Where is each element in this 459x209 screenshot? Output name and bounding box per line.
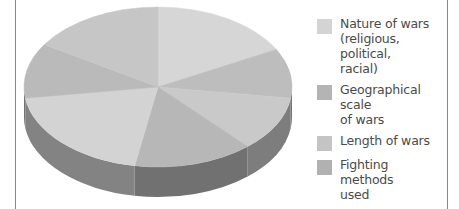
legend-swatch bbox=[317, 85, 332, 100]
legend-swatch bbox=[317, 160, 332, 175]
legend-label: Nature of wars (religious, political, ra… bbox=[340, 16, 445, 76]
legend-label-line: of wars bbox=[340, 112, 445, 127]
legend-item-nature-of-wars: Nature of wars (religious, political, ra… bbox=[317, 16, 445, 76]
legend-label-line: racial) bbox=[340, 61, 445, 76]
legend-item-geographical-scale: Geographical scale of wars bbox=[317, 82, 445, 127]
left-frame-border bbox=[15, 0, 16, 209]
legend-label-line: Length of wars bbox=[340, 133, 430, 148]
legend-label-line: Fighting methods bbox=[340, 157, 445, 187]
legend-swatch bbox=[317, 19, 332, 34]
legend-item-fighting-methods: Fighting methods used bbox=[317, 157, 445, 202]
legend-label-line: (religious, political, bbox=[340, 31, 445, 61]
legend-swatch bbox=[317, 136, 332, 151]
legend-label: Fighting methods used bbox=[340, 157, 445, 202]
pie-chart-3d bbox=[18, 0, 303, 209]
legend-label: Geographical scale of wars bbox=[340, 82, 445, 127]
legend-label-line: Forming armies bbox=[340, 208, 434, 209]
legend-label-line: Geographical scale bbox=[340, 82, 445, 112]
right-frame-border bbox=[447, 0, 448, 209]
legend-label: Forming armies bbox=[340, 208, 434, 209]
legend-label-line: Nature of wars bbox=[340, 16, 445, 31]
legend-item-length-of-wars: Length of wars bbox=[317, 133, 445, 151]
legend-item-forming-armies: Forming armies bbox=[317, 208, 445, 209]
chart-legend: Nature of wars (religious, political, ra… bbox=[317, 16, 445, 209]
legend-label: Length of wars bbox=[340, 133, 430, 148]
legend-label-line: used bbox=[340, 187, 445, 202]
